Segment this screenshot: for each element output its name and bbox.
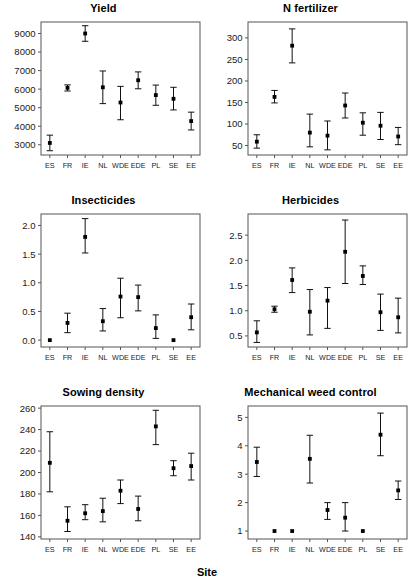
plot-area-yield: 3000400050006000700080009000ESFRIENLWDEE… [0, 0, 207, 190]
svg-text:IE: IE [289, 353, 296, 362]
svg-text:WDE: WDE [112, 545, 129, 554]
svg-text:5: 5 [237, 412, 242, 423]
svg-text:ES: ES [252, 161, 262, 170]
svg-text:PL: PL [151, 545, 160, 554]
svg-text:EDE: EDE [131, 353, 146, 362]
svg-text:EDE: EDE [338, 353, 353, 362]
svg-text:4: 4 [237, 440, 242, 451]
svg-text:EDE: EDE [338, 161, 353, 170]
svg-text:WDE: WDE [112, 161, 129, 170]
svg-text:NL: NL [305, 545, 314, 554]
svg-text:50: 50 [232, 140, 243, 151]
svg-text:EE: EE [186, 545, 196, 554]
svg-text:2.5: 2.5 [229, 230, 242, 241]
panel-insecticides: Insecticides 0.00.51.01.52.0ESFRIENLWDEE… [0, 192, 207, 382]
svg-text:2.0: 2.0 [229, 255, 242, 266]
svg-text:1.0: 1.0 [229, 305, 242, 316]
svg-text:100: 100 [227, 118, 243, 129]
svg-text:NL: NL [98, 161, 107, 170]
panel-herbicides: Herbicides 0.51.01.52.02.5ESFRIENLWDEEDE… [207, 192, 414, 382]
svg-text:1.5: 1.5 [22, 249, 35, 260]
svg-text:240: 240 [20, 424, 36, 435]
svg-text:4000: 4000 [14, 121, 35, 132]
svg-text:EE: EE [186, 161, 196, 170]
svg-text:IE: IE [82, 353, 89, 362]
plot-area-sowing-density: 140160180200220240260ESFRIENLWDEEDEPLSEE… [0, 384, 207, 574]
svg-text:SE: SE [169, 353, 179, 362]
svg-text:200: 200 [227, 75, 243, 86]
svg-text:EE: EE [393, 545, 403, 554]
svg-text:8000: 8000 [14, 46, 35, 57]
svg-text:3: 3 [237, 469, 242, 480]
svg-text:EE: EE [186, 353, 196, 362]
plot-area-insecticides: 0.00.51.01.52.0ESFRIENLWDEEDEPLSEEE [0, 192, 207, 382]
svg-text:300: 300 [227, 32, 243, 43]
svg-text:EDE: EDE [338, 545, 353, 554]
svg-text:FR: FR [270, 161, 280, 170]
plot-area-herbicides: 0.51.01.52.02.5ESFRIENLWDEEDEPLSEEE [207, 192, 414, 382]
panel-n-fertilizer: N fertilizer 50100150200250300ESFRIENLWD… [207, 0, 414, 190]
svg-text:EDE: EDE [131, 161, 146, 170]
svg-text:PL: PL [358, 161, 367, 170]
svg-text:260: 260 [20, 403, 36, 414]
svg-text:WDE: WDE [319, 161, 336, 170]
svg-text:EE: EE [393, 161, 403, 170]
svg-text:EDE: EDE [131, 545, 146, 554]
svg-text:PL: PL [151, 353, 160, 362]
svg-text:IE: IE [289, 545, 296, 554]
svg-text:9000: 9000 [14, 28, 35, 39]
svg-text:IE: IE [82, 161, 89, 170]
svg-text:SE: SE [169, 545, 179, 554]
svg-text:NL: NL [305, 353, 314, 362]
svg-text:SE: SE [376, 161, 386, 170]
svg-text:SE: SE [376, 545, 386, 554]
panel-mechanical-weed-control: Mechanical weed control 12345ESFRIENLWDE… [207, 384, 414, 574]
svg-text:WDE: WDE [319, 545, 336, 554]
svg-text:220: 220 [20, 445, 36, 456]
svg-text:0.0: 0.0 [22, 335, 35, 346]
svg-text:EE: EE [393, 353, 403, 362]
svg-text:2: 2 [237, 497, 242, 508]
svg-text:5000: 5000 [14, 102, 35, 113]
svg-text:180: 180 [20, 488, 36, 499]
svg-text:6000: 6000 [14, 84, 35, 95]
panel-sowing-density: Sowing density 140160180200220240260ESFR… [0, 384, 207, 574]
svg-text:0.5: 0.5 [229, 330, 242, 341]
svg-text:200: 200 [20, 467, 36, 478]
panel-yield: Yield 3000400050006000700080009000ESFRIE… [0, 0, 207, 190]
svg-text:7000: 7000 [14, 65, 35, 76]
svg-text:160: 160 [20, 510, 36, 521]
svg-text:FR: FR [63, 545, 73, 554]
svg-text:WDE: WDE [112, 353, 129, 362]
svg-text:NL: NL [98, 353, 107, 362]
svg-text:ES: ES [252, 353, 262, 362]
svg-text:2.0: 2.0 [22, 220, 35, 231]
svg-text:FR: FR [63, 161, 73, 170]
svg-text:NL: NL [305, 161, 314, 170]
svg-text:PL: PL [358, 353, 367, 362]
svg-text:140: 140 [20, 531, 36, 542]
svg-text:IE: IE [289, 161, 296, 170]
svg-text:FR: FR [270, 353, 280, 362]
svg-text:150: 150 [227, 97, 243, 108]
svg-text:PL: PL [151, 161, 160, 170]
svg-text:0.5: 0.5 [22, 306, 35, 317]
svg-text:ES: ES [252, 545, 262, 554]
figure-panel-grid: Yield 3000400050006000700080009000ESFRIE… [0, 0, 414, 588]
plot-area-mechanical-weed-control: 12345ESFRIENLWDEEDEPLSEEE [207, 384, 414, 574]
svg-text:3000: 3000 [14, 139, 35, 150]
svg-text:1.5: 1.5 [229, 280, 242, 291]
svg-text:250: 250 [227, 54, 243, 65]
svg-text:PL: PL [358, 545, 367, 554]
x-axis-label: Site [0, 566, 414, 578]
svg-text:NL: NL [98, 545, 107, 554]
svg-text:IE: IE [82, 545, 89, 554]
svg-text:1: 1 [237, 525, 242, 536]
svg-text:WDE: WDE [319, 353, 336, 362]
svg-text:SE: SE [169, 161, 179, 170]
plot-area-n-fertilizer: 50100150200250300ESFRIENLWDEEDEPLSEEE [207, 0, 414, 190]
svg-text:ES: ES [45, 161, 55, 170]
svg-text:ES: ES [45, 545, 55, 554]
svg-text:SE: SE [376, 353, 386, 362]
svg-text:ES: ES [45, 353, 55, 362]
